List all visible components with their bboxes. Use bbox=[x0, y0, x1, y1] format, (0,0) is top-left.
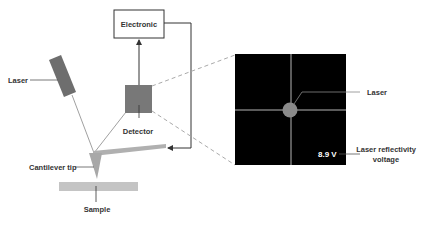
zoom-line-bottom bbox=[152, 111, 235, 165]
feedback-line bbox=[164, 23, 191, 148]
afm-diagram: Electronic Laser Detector Cantilever tip… bbox=[0, 0, 435, 226]
detector-panel: 8.9 V bbox=[235, 54, 360, 165]
laser-source-label: Laser bbox=[8, 76, 28, 85]
laser-spot-label: Laser bbox=[367, 88, 387, 97]
cantilever-beam bbox=[93, 144, 166, 156]
sample bbox=[59, 182, 138, 191]
sample-label: Sample bbox=[84, 205, 111, 214]
voltage-value: 8.9 V bbox=[318, 150, 337, 159]
electronic-label: Electronic bbox=[121, 20, 157, 29]
voltage-label-line2: voltage bbox=[373, 155, 399, 164]
incident-beam bbox=[72, 95, 94, 153]
detector-label: Detector bbox=[123, 127, 154, 136]
cantilever-tip-label: Cantilever tip bbox=[29, 163, 77, 172]
detector bbox=[125, 85, 152, 118]
reflected-beam bbox=[94, 112, 126, 153]
voltage-label-line1: Laser reflectivity bbox=[356, 145, 416, 154]
cantilever-tip bbox=[89, 153, 102, 179]
laser-source bbox=[49, 55, 76, 97]
electronic-box: Electronic bbox=[114, 10, 164, 38]
zoom-line-top bbox=[152, 55, 235, 86]
laser-spot bbox=[283, 103, 298, 118]
